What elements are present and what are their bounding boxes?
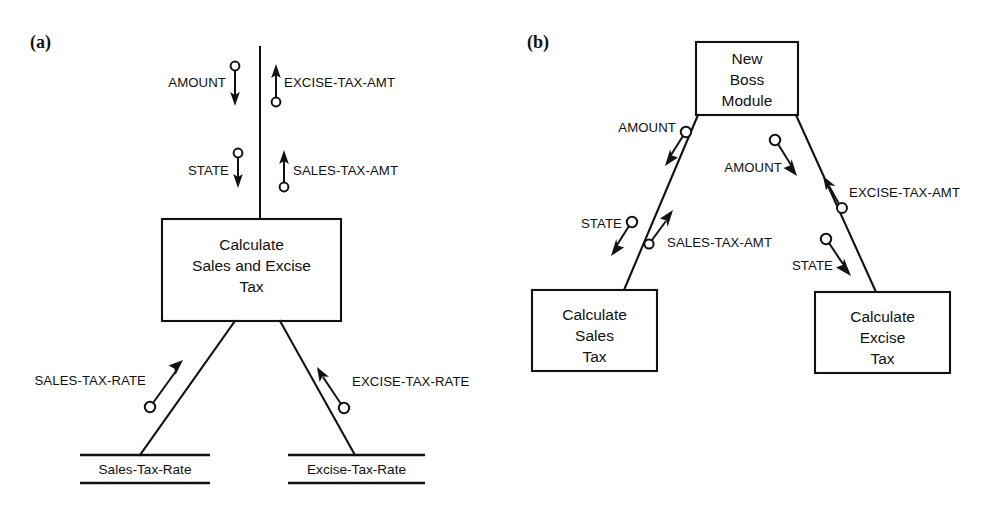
data-store-excise-tax-rate-label: Excise-Tax-Rate — [307, 462, 406, 477]
couple-state-to-sales-arrowhead — [611, 239, 624, 256]
module-calculate-excise-tax-line-1: Calculate — [850, 308, 915, 325]
couple-amount-to-sales-arrowhead — [665, 149, 678, 166]
panel-a-branch-right — [280, 321, 355, 455]
couple-amount-to-sales-circle — [681, 127, 691, 137]
data-store-sales-tax-rate: Sales-Tax-Rate — [80, 455, 210, 483]
module-new-boss-module-line-2: Boss — [730, 71, 765, 88]
data-store-sales-tax-rate-label: Sales-Tax-Rate — [99, 462, 192, 477]
couple-state-to-excise-label: STATE — [792, 258, 833, 273]
couple-state-to-sales-label: STATE — [581, 216, 622, 231]
couple-excise-tax-rate-in-shaft — [323, 377, 341, 404]
couple-amount-to-excise-circle — [770, 135, 780, 145]
couple-state-in: STATE — [188, 149, 243, 188]
couple-excise-tax-amt-out-label: EXCISE-TAX-AMT — [284, 75, 395, 90]
couple-state-to-excise: STATE — [792, 234, 851, 276]
couple-excise-tax-amt-out: EXCISE-TAX-AMT — [271, 64, 395, 106]
couple-excise-tax-amt-up: EXCISE-TAX-AMT — [823, 176, 960, 213]
couple-amount-to-excise: AMOUNT — [724, 135, 797, 176]
panel-a-branch-left — [140, 321, 235, 455]
couple-sales-tax-amt-out-label: SALES-TAX-AMT — [293, 163, 398, 178]
couple-amount-to-excise-arrowhead — [784, 159, 798, 176]
couple-sales-tax-rate-in-circle — [145, 402, 155, 412]
couple-amount-to-sales-label: AMOUNT — [618, 120, 676, 135]
couple-excise-tax-rate-in: EXCISE-TAX-RATE — [317, 367, 470, 413]
couple-amount-in: AMOUNT — [168, 62, 240, 106]
panel-b-branch-left — [624, 115, 698, 290]
structure-chart-figure: (a) Calculate Sales and Excise Tax Sales… — [0, 0, 1001, 509]
couple-sales-tax-rate-in-arrowhead — [169, 360, 183, 375]
panel-a-tag: (a) — [30, 32, 51, 53]
couple-sales-tax-amt-up-arrowhead — [660, 210, 673, 227]
panel-b-tag: (b) — [527, 32, 549, 53]
couple-sales-tax-amt-up-label: SALES-TAX-AMT — [667, 235, 772, 250]
module-calculate-sales-and-excise-tax-line-1: Calculate — [219, 236, 284, 253]
couple-state-to-excise-circle — [821, 234, 831, 244]
couple-sales-tax-amt-up: SALES-TAX-AMT — [644, 210, 772, 250]
data-store-excise-tax-rate: Excise-Tax-Rate — [288, 455, 425, 483]
couple-sales-tax-rate-in: SALES-TAX-RATE — [34, 360, 183, 412]
couple-excise-tax-amt-out-circle — [272, 98, 281, 107]
couple-excise-tax-amt-up-circle — [837, 203, 847, 213]
couple-excise-tax-rate-in-circle — [339, 403, 349, 413]
couple-state-to-excise-arrowhead — [836, 258, 851, 276]
module-calculate-excise-tax-line-3: Tax — [870, 350, 894, 367]
couple-excise-tax-amt-up-label: EXCISE-TAX-AMT — [849, 185, 960, 200]
module-calculate-sales-tax-line-3: Tax — [582, 348, 606, 365]
module-new-boss-module-line-1: New — [731, 50, 763, 67]
structure-chart-svg: (a) Calculate Sales and Excise Tax Sales… — [0, 0, 1001, 509]
panel-b: (b) New Boss Module Calculate Sales Tax … — [527, 32, 960, 373]
couple-sales-tax-rate-in-shaft — [153, 371, 176, 403]
couple-state-to-sales: STATE — [581, 216, 637, 256]
couple-sales-tax-amt-out: SALES-TAX-AMT — [279, 150, 398, 191]
couple-state-to-sales-circle — [627, 217, 637, 227]
module-calculate-excise-tax-line-2: Excise — [860, 329, 906, 346]
couple-sales-tax-rate-in-label: SALES-TAX-RATE — [34, 373, 146, 388]
module-new-boss-module-line-3: Module — [722, 92, 773, 109]
couple-sales-tax-amt-up-shaft — [652, 221, 666, 240]
module-calculate-sales-tax-line-2: Sales — [575, 327, 614, 344]
couple-excise-tax-rate-in-label: EXCISE-TAX-RATE — [352, 374, 470, 389]
couple-excise-tax-rate-in-arrowhead — [317, 367, 329, 382]
couple-sales-tax-amt-out-circle — [280, 183, 289, 192]
couple-amount-in-label: AMOUNT — [168, 75, 226, 90]
panel-a: (a) Calculate Sales and Excise Tax Sales… — [30, 32, 470, 483]
module-calculate-sales-and-excise-tax-line-2: Sales and Excise — [192, 257, 311, 274]
module-calculate-sales-tax-line-1: Calculate — [562, 306, 627, 323]
couple-state-in-circle — [234, 149, 243, 158]
couple-state-in-label: STATE — [188, 163, 229, 178]
couple-amount-to-excise-label: AMOUNT — [724, 160, 782, 175]
module-calculate-sales-and-excise-tax-line-3: Tax — [239, 278, 263, 295]
couple-amount-in-circle — [231, 62, 240, 71]
couple-sales-tax-amt-up-circle — [644, 239, 653, 248]
